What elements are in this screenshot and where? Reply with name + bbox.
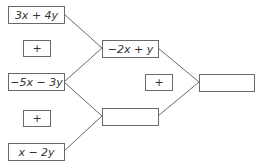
- edge-left-bottom-to-mid-bottom: [64, 116, 102, 151]
- plus-operator-box-1: +: [23, 40, 51, 57]
- empty-answer-box-result[interactable]: [199, 74, 255, 92]
- plus-operator-box-2: +: [23, 110, 51, 127]
- expression-box-left-top: 3x + 4y: [8, 6, 65, 24]
- expression-box-left-bottom: x − 2y: [8, 143, 65, 161]
- expression-box-middle-top: −2x + y: [102, 40, 159, 58]
- plus-operator-box-middle: +: [145, 74, 173, 91]
- edge-left-mid-to-mid-top: [64, 48, 102, 82]
- edge-left-mid-to-mid-bottom: [64, 82, 102, 116]
- edge-left-top-to-mid-top: [64, 14, 102, 48]
- empty-answer-box-middle-bottom[interactable]: [102, 108, 159, 126]
- expression-box-left-middle: −5x − 3y: [8, 73, 65, 91]
